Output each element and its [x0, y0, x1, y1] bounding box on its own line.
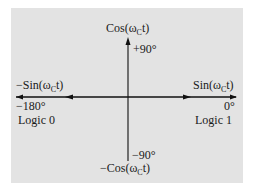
- angle-neg180: −180°: [16, 100, 46, 113]
- neg-sin-label: −Sin(ωCt): [16, 79, 63, 96]
- cos-label: Cos(ωCt): [106, 22, 149, 39]
- angle-plus90: +90°: [133, 43, 157, 56]
- neg-cos-label: −Cos(ωCt): [100, 162, 150, 179]
- logic0-label: Logic 0: [18, 114, 55, 127]
- vector-logic1-arrow-icon: [183, 95, 191, 100]
- sin-label: Sin(ωCt): [193, 79, 234, 96]
- logic1-label: Logic 1: [195, 114, 232, 127]
- angle-0: 0°: [224, 100, 235, 113]
- vector-logic0-arrow-icon: [65, 95, 73, 100]
